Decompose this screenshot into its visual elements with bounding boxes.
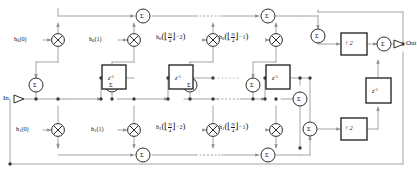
sum-out-lower-symbol: Σ (307, 125, 311, 132)
h0-tap-0-label: h0(0) (14, 36, 27, 43)
h1-tap-n-1-label: h1(⌊N4⌋−1) (219, 122, 248, 133)
delay-top-2-label: z-1 (175, 74, 181, 81)
h1-tap-n-2-label: h1(⌊N4⌋−2) (156, 122, 185, 133)
sum-mid-4-symbol: Σ (250, 81, 254, 88)
sum-top-1-symbol: Σ (140, 12, 144, 19)
sum-mid-1-symbol: Σ (33, 81, 37, 88)
delay-top-3-label: z-1 (272, 74, 278, 81)
diagram-schematic (0, 0, 417, 171)
sum-mid-3-symbol: Σ (187, 81, 191, 88)
sum-bot-2-symbol: Σ (265, 151, 269, 158)
junction-dots (8, 42, 404, 165)
upsampler-upper-label: ↑ 2 (345, 39, 353, 46)
h0-tap-n-1-label: h0(⌊N4⌋−1) (219, 32, 248, 43)
sum-mid-2-symbol: Σ (109, 81, 113, 88)
sum-mid-5-symbol: Σ (297, 95, 301, 102)
diagram-canvas: In Out h0(0) h0(1) h0(⌊N4⌋−2) h0(⌊N4⌋−1)… (0, 0, 417, 171)
input-port-label: In (3, 95, 9, 102)
h0-tap-n-2-label: h0(⌊N4⌋−2) (156, 32, 185, 43)
output-port-label: Out (406, 40, 417, 47)
h1-tap-0-label: h1(0) (16, 126, 29, 133)
delay-output-label: z-1 (372, 87, 378, 94)
delay-box-output (366, 78, 391, 103)
sum-top-2-symbol: Σ (265, 12, 269, 19)
upsampler-lower-label: ↑ 2 (345, 124, 353, 131)
sum-bot-1-symbol: Σ (140, 151, 144, 158)
sum-out-upper-symbol: Σ (315, 32, 319, 39)
h1-tap-1-label: h1(1) (91, 126, 104, 133)
delay-top-1-label: z-1 (108, 74, 114, 81)
sum-output-symbol: Σ (381, 40, 385, 47)
h0-tap-1-label: h0(1) (89, 36, 102, 43)
